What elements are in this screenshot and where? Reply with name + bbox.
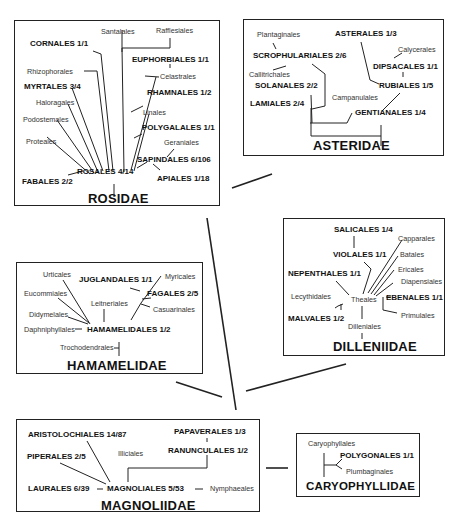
label-malvales: MALVALES 1/2	[288, 315, 344, 323]
label-haloragales: Haloragales	[36, 99, 74, 106]
label-nymphaeales: Nymphaeales	[210, 485, 254, 492]
label-scrophulariales: SCROPHULARIALES 2/6	[253, 52, 346, 60]
label-myricales: Myricales	[165, 273, 195, 280]
label-batales: Batales	[400, 251, 424, 258]
label-santalales: Santalales	[101, 28, 135, 35]
label-rosales: ROSALES 4/14	[77, 168, 133, 176]
title-rosidae: ROSIDAE	[88, 192, 149, 205]
label-urticales: Urticales	[43, 271, 71, 278]
label-solanales: SOLANALES 2/2	[255, 82, 318, 90]
label-polygonales: POLYGONALES 1/1	[340, 452, 414, 460]
label-celastrales: Celastrales	[160, 73, 196, 80]
label-polygalales: POLYGALALES 1/1	[142, 124, 215, 132]
label-myrtales: MYRTALES 3/4	[24, 83, 81, 91]
label-primulales: Primulales	[401, 312, 435, 319]
label-salicales: SALICALES 1/4	[334, 226, 393, 234]
label-euphorbiales: EUPHORBIALES 1/1	[132, 56, 209, 64]
label-lecythidales: Lecythidales	[291, 293, 331, 300]
label-trochodendrales: Trochodendrales	[60, 344, 114, 351]
label-eucommiales: Eucommiales	[24, 290, 67, 297]
label-proteales: Proteales	[26, 138, 56, 145]
label-linales: Linales	[143, 109, 166, 116]
label-dilleniales: Dilleniales	[348, 323, 381, 330]
label-rafflesiales: Rafflesiales	[156, 27, 193, 34]
label-fabales: FABALES 2/2	[22, 178, 73, 186]
label-diapensiales: Diapensiales	[401, 278, 442, 285]
label-capparales: Capparales	[398, 235, 435, 242]
label-ebenales: EBENALES 1/1	[386, 294, 443, 302]
label-geraniales: Geraniales	[164, 139, 199, 146]
title-asteridae: ASTERIDAE	[313, 139, 390, 152]
label-cornales: CORNALES 1/1	[30, 40, 88, 48]
label-lamiales: LAMIALES 2/4	[250, 100, 304, 108]
label-casuarinales: Casuarinales	[153, 306, 195, 313]
label-theales: Theales	[351, 296, 377, 303]
label-gentianales: GENTIANALES 1/4	[355, 109, 426, 117]
label-piperales: PIPERALES 2/5	[27, 453, 86, 461]
label-illiciales: Illiciales	[118, 450, 143, 457]
label-plantaginales: Plantaginales	[257, 31, 300, 38]
label-laurales: LAURALES 6/39	[28, 485, 89, 493]
title-dilleniidae: DILLENIIDAE	[333, 340, 417, 353]
label-rhamnales: RHAMNALES 1/2	[147, 89, 211, 97]
label-violales: VIOLALES 1/1	[333, 251, 386, 259]
label-apiales: APIALES 1/18	[157, 175, 209, 183]
label-plumbaginales: Plumbaginales	[346, 468, 393, 475]
label-sapindales: SAPINDALES 6/106	[137, 156, 211, 164]
label-asterales: ASTERALES 1/3	[335, 30, 397, 38]
label-ericales: Ericales	[398, 266, 424, 273]
label-hamamelidales: HAMAMELIDALES 1/2	[87, 326, 171, 334]
label-ranunculales: RANUNCULALES 1/2	[168, 447, 248, 455]
label-campanulales: Campanulales	[332, 94, 378, 101]
label-dipsacales: DIPSACALES 1/1	[373, 63, 438, 71]
title-hamamelidae: HAMAMELIDAE	[67, 359, 167, 372]
label-callitrichales: Callitrichales	[249, 71, 290, 78]
label-magnoliales: MAGNOLIALES 5/53	[107, 485, 184, 493]
title-caryophyllidae: CARYOPHYLLIDAE	[306, 481, 415, 493]
label-nepenthales: NEPENTHALES 1/1	[288, 270, 361, 278]
label-didymelales: Didymelales	[29, 311, 68, 318]
title-magnoliidae: MAGNOLIIDAE	[101, 499, 196, 512]
label-podostemales: Podostemales	[23, 116, 69, 123]
label-rubiales: RUBIALES 1/5	[379, 82, 433, 90]
label-aristolochiales: ARISTOLOCHIALES 14/87	[28, 431, 127, 439]
label-calycerales: Calycerales	[398, 46, 436, 53]
label-juglandales: JUGLANDALES 1/1	[79, 276, 152, 284]
label-rhizophorales: Rhizophorales	[27, 68, 73, 75]
label-daphniphyllales: Daphniphyllales	[24, 326, 75, 333]
label-leitneriales: Leitneriales	[91, 300, 128, 307]
label-caryophyllales: Caryophyllales	[308, 440, 355, 447]
label-fagales: FAGALES 2/5	[147, 290, 198, 298]
label-papaverales: PAPAVERALES 1/3	[174, 428, 246, 436]
